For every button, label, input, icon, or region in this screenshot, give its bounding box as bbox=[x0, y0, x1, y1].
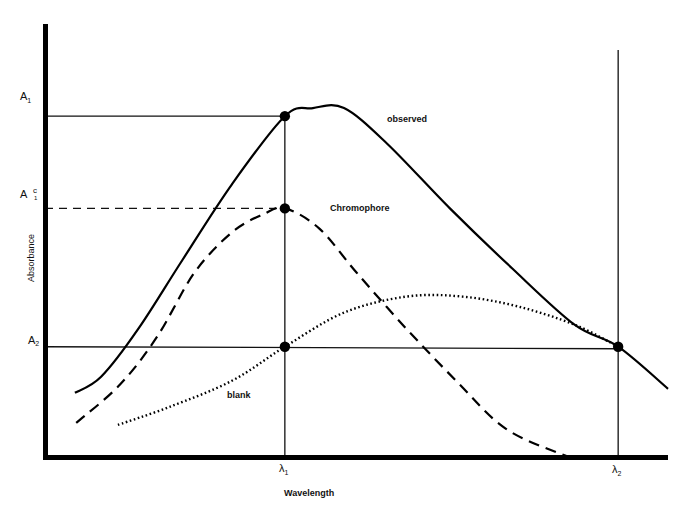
marker-intersection-at-lambda2 bbox=[613, 342, 623, 352]
y-tick-A1c: A c 1 bbox=[20, 186, 38, 201]
absorbance-diagram: A1 A c 1 A2 λ1 λ2 Wavelength Absorbance … bbox=[0, 0, 684, 510]
x-axis-label: Wavelength bbox=[284, 488, 334, 498]
annotation-blank: blank bbox=[227, 390, 252, 400]
svg-text:λ2: λ2 bbox=[612, 463, 622, 477]
series-blank-line bbox=[118, 295, 618, 425]
annotation-observed: observed bbox=[387, 114, 427, 124]
svg-text:A: A bbox=[20, 188, 28, 200]
marker-blank-at-lambda1 bbox=[280, 342, 290, 352]
x-tick-lambda2: λ2 bbox=[612, 463, 622, 477]
markers bbox=[280, 111, 624, 352]
y-tick-A1: A1 bbox=[20, 90, 31, 104]
reference-lines bbox=[45, 50, 618, 457]
svg-text:A1: A1 bbox=[20, 90, 31, 104]
annotation-chromophore: Chromophore bbox=[330, 203, 390, 213]
marker-observed-at-lambda1 bbox=[280, 111, 290, 121]
series-observed-line bbox=[75, 105, 668, 393]
y-tick-A2: A2 bbox=[28, 334, 39, 347]
svg-text:1: 1 bbox=[34, 195, 38, 201]
marker-chromophore-at-lambda1 bbox=[280, 203, 290, 213]
svg-text:c: c bbox=[33, 186, 37, 195]
series-chromophore-line bbox=[76, 208, 568, 457]
reference-line-A2 bbox=[45, 347, 618, 349]
y-axis-label: Absorbance bbox=[26, 234, 36, 282]
curves bbox=[75, 105, 668, 457]
svg-text:A2: A2 bbox=[28, 334, 39, 347]
x-tick-lambda1: λ1 bbox=[279, 462, 289, 476]
svg-text:λ1: λ1 bbox=[279, 462, 289, 476]
